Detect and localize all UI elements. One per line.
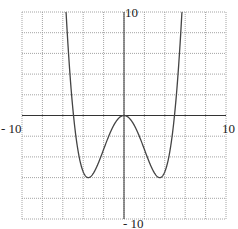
x-axis-max-label: 10 [222, 121, 235, 136]
y-axis-min-label: - 10 [123, 216, 144, 229]
function-plot: - 10 10 10 - 10 [0, 0, 238, 229]
x-axis-min-label: - 10 [1, 121, 22, 136]
y-axis-max-label: 10 [125, 5, 138, 20]
